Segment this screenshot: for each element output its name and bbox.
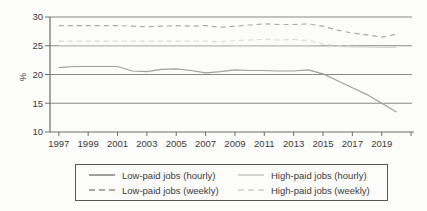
scanned-line-chart-figure: 1015202530199719992001200320052007200920…: [0, 0, 427, 211]
legend-label-low-paid-hourly: Low-paid jobs (hourly): [122, 168, 215, 183]
svg-text:10: 10: [32, 126, 43, 137]
legend-swatch-high-paid-hourly: [238, 174, 264, 176]
series-line-1: [59, 24, 397, 37]
legend-item-high-paid-hourly: High-paid jobs (hourly): [238, 168, 387, 183]
svg-text:2003: 2003: [136, 138, 157, 149]
series-line-2: [59, 46, 397, 48]
svg-text:2019: 2019: [371, 138, 392, 149]
legend-swatch-high-paid-weekly: [238, 189, 264, 191]
legend-swatch-low-paid-hourly: [89, 174, 115, 176]
legend-label-high-paid-hourly: High-paid jobs (hourly): [271, 168, 367, 183]
series-line-0: [59, 67, 397, 112]
svg-text:%: %: [17, 72, 28, 81]
chart-legend: Low-paid jobs (hourly) High-paid jobs (h…: [75, 164, 388, 201]
svg-text:2005: 2005: [166, 138, 187, 149]
svg-text:20: 20: [32, 69, 43, 80]
legend-swatch-low-paid-weekly: [89, 189, 115, 191]
legend-item-high-paid-weekly: High-paid jobs (weekly): [238, 183, 387, 198]
svg-text:2015: 2015: [312, 138, 333, 149]
svg-text:30: 30: [32, 11, 43, 22]
legend-label-low-paid-weekly: Low-paid jobs (weekly): [122, 183, 219, 198]
svg-text:1997: 1997: [48, 138, 69, 149]
svg-text:2001: 2001: [107, 138, 128, 149]
svg-text:15: 15: [32, 98, 43, 109]
line-chart-canvas: 1015202530199719992001200320052007200920…: [0, 0, 427, 160]
svg-text:1999: 1999: [78, 138, 99, 149]
svg-text:2009: 2009: [224, 138, 245, 149]
legend-item-low-paid-weekly: Low-paid jobs (weekly): [89, 183, 238, 198]
svg-text:2013: 2013: [283, 138, 304, 149]
svg-text:25: 25: [32, 40, 43, 51]
svg-text:2007: 2007: [195, 138, 216, 149]
legend-label-high-paid-weekly: High-paid jobs (weekly): [271, 183, 370, 198]
legend-item-low-paid-hourly: Low-paid jobs (hourly): [89, 168, 238, 183]
svg-text:2017: 2017: [342, 138, 363, 149]
svg-text:2011: 2011: [254, 138, 274, 149]
